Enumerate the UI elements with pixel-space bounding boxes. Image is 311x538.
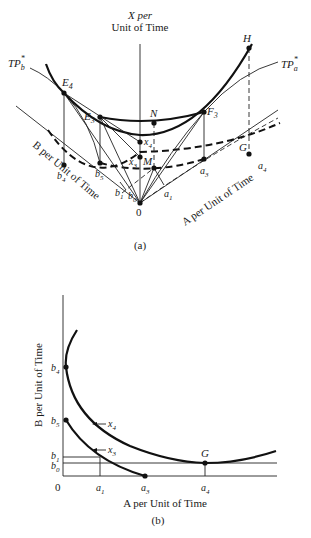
b1-tick — [120, 182, 126, 190]
isoquant-x4 — [66, 330, 276, 463]
production-diagram: X per Unit of Time — [0, 0, 311, 538]
ytick-b5: b5 — [51, 415, 60, 429]
label-m: M — [142, 155, 153, 167]
label-n: N — [149, 107, 158, 119]
label-x3: x3 — [107, 444, 116, 458]
b-axis-label: B per Unit of Time — [31, 138, 103, 201]
point-b5 — [63, 417, 68, 422]
panel-a: X per Unit of Time — [8, 9, 298, 252]
label-tp-a: TPa* — [281, 55, 298, 73]
label-g: G — [239, 141, 247, 153]
point-g — [246, 151, 251, 156]
point-b4 — [63, 364, 68, 369]
x-axis-label-b: A per Unit of Time — [123, 497, 207, 509]
label-x4: x4 — [143, 136, 152, 150]
point-e4 — [61, 90, 66, 95]
point-e3 — [97, 114, 102, 119]
point-f3 — [201, 109, 206, 114]
label-e4: E4 — [61, 76, 73, 91]
point-g — [202, 460, 207, 465]
point-a3 — [201, 156, 206, 161]
caption-a: (a) — [134, 239, 147, 252]
point-m — [151, 165, 156, 170]
label-f3: F3 — [206, 105, 218, 120]
label-x4: x4 — [107, 418, 116, 432]
label-x3: x3 — [128, 156, 137, 170]
point-n — [151, 120, 156, 125]
e3-x3-line — [100, 117, 140, 157]
point-origin — [137, 200, 142, 205]
point-b5 — [97, 160, 102, 165]
label-a3: a3 — [200, 165, 209, 179]
panel-b: x4 x3 G b4 b5 b1 b0 0 a1 a3 a4 A per Uni… — [32, 295, 277, 527]
point-a3 — [142, 473, 147, 478]
point-h — [246, 45, 251, 50]
xtick-a4: a4 — [201, 482, 210, 496]
x-axis-label-2: Unit of Time — [112, 21, 169, 33]
label-b0: b0 — [128, 190, 137, 204]
ytick-b4: b4 — [51, 362, 60, 376]
point-x4 — [137, 139, 142, 144]
a-axis-label: A per Unit of Time — [179, 171, 255, 228]
point-x3 — [137, 154, 142, 159]
ray-e3 — [100, 117, 140, 203]
x-axis-label-1: X per — [127, 9, 153, 21]
label-a1: a1 — [164, 188, 173, 202]
label-tp-b: TPb* — [8, 54, 25, 72]
label-b5: b5 — [95, 168, 104, 182]
xtick-a3: a3 — [141, 482, 150, 496]
caption-b: (b) — [152, 514, 165, 527]
ray-e4 — [64, 93, 140, 203]
label-origin: 0 — [136, 206, 142, 218]
origin-b: 0 — [55, 481, 61, 493]
label-h: H — [242, 32, 252, 44]
y-axis-label-b: B per Unit of Time — [32, 343, 44, 427]
xtick-a1: a1 — [96, 482, 105, 496]
label-g: G — [201, 447, 209, 459]
label-a4: a4 — [258, 160, 267, 174]
